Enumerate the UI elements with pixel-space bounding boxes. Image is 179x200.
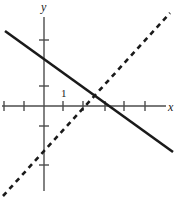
coordinate-plot: [0, 0, 179, 200]
y-axis-label: y: [41, 1, 46, 13]
series-solid-line: [5, 31, 173, 152]
x-axis-label: x: [168, 101, 173, 113]
x-tick-label-1: 1: [61, 88, 67, 99]
axes-group: [2, 17, 166, 191]
graph-figure: y x 1: [0, 0, 179, 200]
